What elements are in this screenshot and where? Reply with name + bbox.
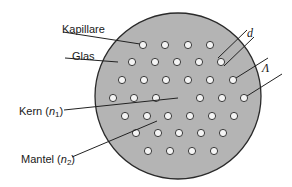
capillary-hole <box>109 94 116 101</box>
capillary-hole <box>151 58 158 65</box>
capillary-hole <box>217 58 224 65</box>
capillary-hole <box>139 41 146 48</box>
capillary-hole <box>162 76 169 83</box>
capillary-hole <box>154 129 161 136</box>
capillary-hole <box>186 112 193 119</box>
capillary-hole <box>219 129 226 136</box>
label-kapillare: Kapillare <box>62 23 105 35</box>
capillary-hole <box>143 112 150 119</box>
capillary-hole <box>175 129 182 136</box>
capillary-hole <box>229 76 236 83</box>
label-kern: Kern (n1) <box>19 105 63 117</box>
capillary-hole <box>184 41 191 48</box>
capillary-hole <box>197 129 204 136</box>
capillary-hole <box>208 112 215 119</box>
capillary-hole <box>173 58 180 65</box>
capillary-hole <box>195 58 202 65</box>
label-mantel: Mantel (n2) <box>21 153 75 165</box>
fiber-diagram: Kapillare Glas Kern (n1) Mantel (n2) d Λ <box>0 0 292 187</box>
capillary-hole <box>230 112 237 119</box>
kern-text: Kern ( <box>19 105 49 117</box>
symbol-d: d <box>247 27 253 39</box>
capillary-hole <box>128 58 135 65</box>
capillary-hole <box>210 147 217 154</box>
label-glas: Glas <box>72 50 95 62</box>
capillary-hole <box>164 112 171 119</box>
capillary-hole <box>140 76 147 83</box>
capillary-hole <box>184 76 191 83</box>
capillary-hole <box>130 94 137 101</box>
capillary-hole <box>121 112 128 119</box>
mantel-close: ) <box>71 153 75 165</box>
capillary-hole <box>118 76 125 83</box>
mantel-text: Mantel ( <box>21 153 61 165</box>
capillary-hole <box>206 76 213 83</box>
capillary-hole <box>144 147 151 154</box>
capillary-hole <box>240 94 247 101</box>
cladding-glass-disc <box>95 13 261 179</box>
kern-close: ) <box>60 105 64 117</box>
capillary-hole <box>196 94 203 101</box>
symbol-lambda: Λ <box>262 62 269 74</box>
capillary-hole <box>188 147 195 154</box>
capillary-hole <box>166 147 173 154</box>
capillary-hole <box>206 41 213 48</box>
capillary-hole <box>161 41 168 48</box>
capillary-hole <box>218 94 225 101</box>
